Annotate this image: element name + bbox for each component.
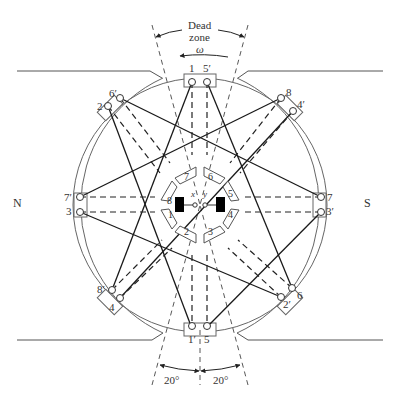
diagram-graphics [0,0,396,406]
commutator-segment-label: 6 [208,172,213,182]
slot-label: 2 [97,101,103,112]
commutator-segment-label: 3 [208,227,213,237]
commutator-segment-label: 4 [228,210,233,220]
commutator [161,167,239,243]
slot-label: 6′ [109,88,117,99]
angle-right-label: 20° [213,375,228,386]
slot-label: 7′ [64,192,72,203]
slot-label: 5′ [203,63,211,74]
winding-diagram: N S Dead zone ω 20° 20° x y 1 5′ 2 6′ 8 … [0,0,396,406]
terminal-x-label: x [191,190,195,199]
dead-zone-label-1: Dead [188,20,211,31]
slot-label: 1′ [188,334,196,345]
winding-solid [80,82,321,326]
slot-label: 4′ [297,99,305,110]
commutator-segment-label: 8 [167,196,172,206]
dead-zone-label-2: zone [189,32,210,43]
commutator-segment-label: 1 [168,210,173,220]
slot-label: 1 [189,63,195,74]
commutator-segment-label: 7 [184,172,189,182]
north-pole-label: N [13,197,22,209]
slot-label: 7 [327,192,333,203]
rotation-omega-label: ω [196,44,204,55]
south-pole-label: S [364,197,371,209]
slot-label: 2′ [283,299,291,310]
winding-dashed [80,82,321,326]
slot-label: 8′ [97,284,105,295]
slots [74,74,326,336]
commutator-segment-label: 5 [228,189,233,199]
angle-left-label: 20° [164,375,179,386]
slot-label: 3′ [326,206,334,217]
slot-label: 4 [109,302,115,313]
commutator-segment-label: 2 [184,227,189,237]
terminal-y-label: y [203,190,207,199]
slot-label: 6 [297,290,303,301]
slot-label: 8 [286,87,292,98]
slot-label: 3 [66,206,72,217]
brushes [175,197,225,212]
slot-label: 5 [204,334,210,345]
